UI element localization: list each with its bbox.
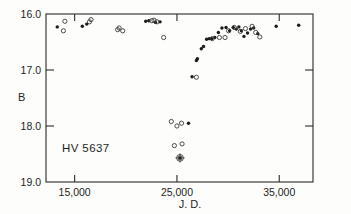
light-curve-figure: 15,00025,00035,00016.017.018.019.0 B J. … xyxy=(0,0,351,214)
data-point-filled xyxy=(242,35,245,38)
data-point-filled xyxy=(217,31,220,34)
data-point-filled xyxy=(246,31,249,34)
data-point-filled xyxy=(274,25,277,28)
data-point-open xyxy=(217,35,221,39)
object-label: HV 5637 xyxy=(62,142,110,154)
x-tick-label: 35,000 xyxy=(263,186,295,198)
data-point-filled xyxy=(81,25,84,28)
y-axis-title: B xyxy=(18,91,25,103)
data-point-filled xyxy=(187,122,190,125)
data-point-filled xyxy=(196,57,199,60)
data-point-open xyxy=(63,19,67,23)
data-point-filled xyxy=(144,20,147,23)
x-axis-title: J. D. xyxy=(179,198,202,210)
data-point-filled xyxy=(237,25,240,28)
y-tick-label: 16.0 xyxy=(21,8,42,20)
data-point-filled xyxy=(297,24,300,27)
data-point-filled xyxy=(190,75,193,78)
data-point-open xyxy=(243,26,247,30)
data-point-open xyxy=(180,142,184,146)
data-point-filled xyxy=(224,26,227,29)
data-point-open xyxy=(194,75,198,79)
data-point-open xyxy=(121,29,125,33)
y-tick-label: 17.0 xyxy=(21,64,42,76)
plot-canvas: 15,00025,00035,00016.017.018.019.0 B J. … xyxy=(0,0,351,214)
y-tick-label: 19.0 xyxy=(21,176,42,188)
data-point-open xyxy=(61,29,65,33)
data-points xyxy=(56,18,301,163)
data-point-filled xyxy=(220,26,223,29)
data-point-uncertain-core xyxy=(178,156,181,159)
data-point-filled xyxy=(202,45,205,48)
data-point-filled xyxy=(56,25,59,28)
y-tick-label: 18.0 xyxy=(21,120,42,132)
data-point-open xyxy=(223,35,227,39)
data-point-open xyxy=(169,119,173,123)
data-point-open xyxy=(258,35,262,39)
axis-tick-labels: 15,00025,00035,00016.017.018.019.0 xyxy=(21,8,296,198)
data-point-open xyxy=(172,144,176,148)
data-point-open xyxy=(162,35,166,39)
x-tick-label: 25,000 xyxy=(161,186,193,198)
data-point-open xyxy=(179,121,183,125)
data-point-open xyxy=(175,124,179,128)
x-tick-label: 15,000 xyxy=(59,186,91,198)
